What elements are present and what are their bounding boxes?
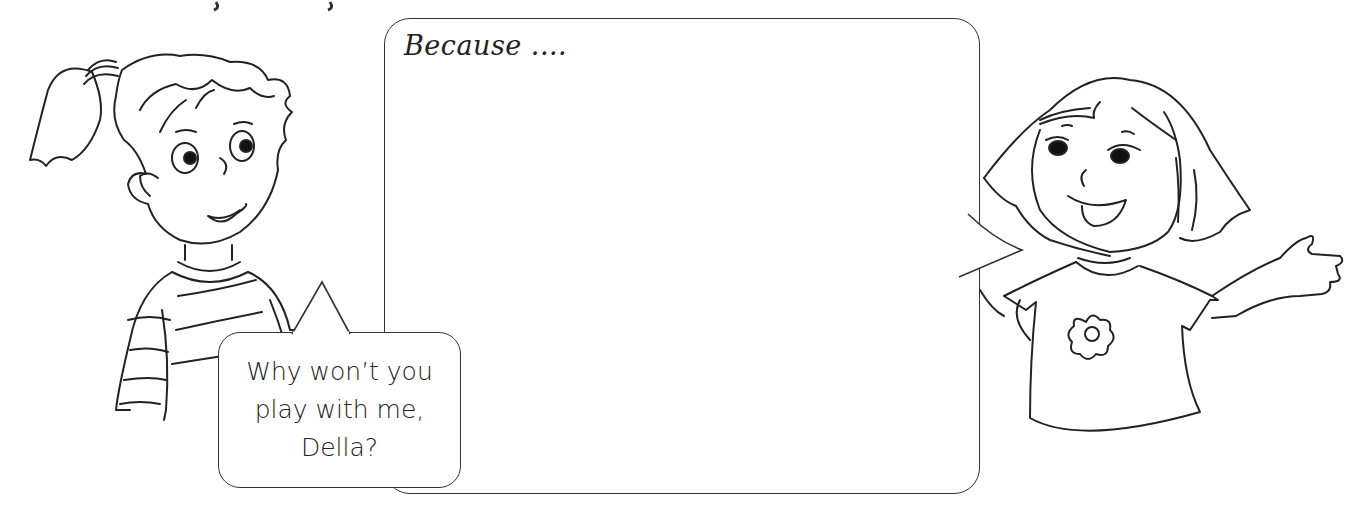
right-girl-illustration (0, 0, 1364, 515)
